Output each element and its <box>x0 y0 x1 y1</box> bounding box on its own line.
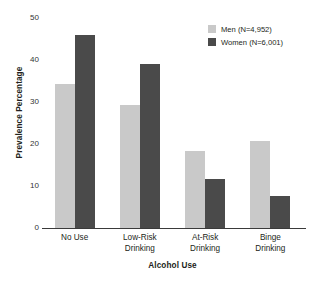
x-axis-tick-label-line: At-Risk <box>173 232 238 243</box>
bar-women-at-risk-drinking <box>205 179 225 228</box>
bar-group <box>173 18 238 228</box>
x-axis-tick-label: At-RiskDrinking <box>173 232 238 254</box>
legend-item[interactable]: Women (N=6,001) <box>208 36 283 48</box>
x-axis-tick-label: BingeDrinking <box>238 232 303 254</box>
bar-men-no-use <box>55 84 75 228</box>
legend-item-label: Men (N=4,952) <box>221 25 272 34</box>
x-axis-tick-label: No Use <box>42 232 107 254</box>
bar-women-low-risk-drinking <box>140 64 160 228</box>
bar-group <box>42 18 107 228</box>
legend-swatch-icon <box>208 25 216 33</box>
legend-swatch-icon <box>208 38 216 46</box>
x-axis-tick-label-line: Drinking <box>173 243 238 254</box>
legend-item[interactable]: Men (N=4,952) <box>208 23 283 35</box>
x-axis-tick-label-line: Drinking <box>238 243 303 254</box>
x-axis-tick-labels: No UseLow-RiskDrinkingAt-RiskDrinkingBin… <box>42 232 303 254</box>
legend-item-label: Women (N=6,001) <box>221 38 283 47</box>
bar-men-at-risk-drinking <box>185 151 205 228</box>
x-axis-title: Alcohol Use <box>42 261 303 270</box>
bar-men-binge-drinking <box>250 141 270 228</box>
bar-women-no-use <box>75 35 95 228</box>
chart-legend: Men (N=4,952)Women (N=6,001) <box>208 23 283 49</box>
x-axis-tick-label-line: Binge <box>238 232 303 243</box>
y-axis-tick-label: 10 <box>0 182 39 190</box>
y-axis-tick-label: 0 <box>0 224 39 232</box>
y-axis-tick-label: 30 <box>0 98 39 106</box>
x-axis-tick-label-line: Low-Risk <box>107 232 172 243</box>
bar-groups <box>42 18 303 228</box>
y-axis-tick-label: 40 <box>0 56 39 64</box>
x-axis-tick-label-line: No Use <box>42 232 107 243</box>
y-axis-tick-label: 50 <box>0 14 39 22</box>
bar-men-low-risk-drinking <box>120 105 140 228</box>
x-axis-tick-label: Low-RiskDrinking <box>107 232 172 254</box>
x-axis-line <box>42 228 306 229</box>
bar-group <box>107 18 172 228</box>
y-axis-tick-label: 20 <box>0 140 39 148</box>
bar-group <box>238 18 303 228</box>
bar-women-binge-drinking <box>270 196 290 228</box>
bar-chart: Prevalence Percentage 01020304050 No Use… <box>0 0 315 281</box>
x-axis-tick-label-line: Drinking <box>107 243 172 254</box>
